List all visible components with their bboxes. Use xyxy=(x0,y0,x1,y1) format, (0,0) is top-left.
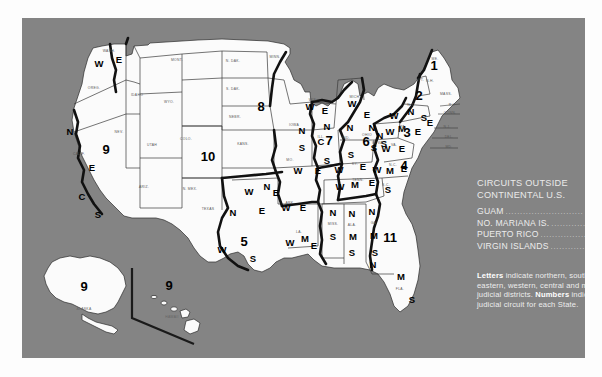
state-abbr: R.I. xyxy=(449,103,455,107)
state-abbr: OHIO xyxy=(362,133,372,137)
alaska-abbr: ALASKA xyxy=(77,307,92,311)
district-letter-louisiana-M: M xyxy=(301,233,309,244)
state-abbr: IOWA xyxy=(289,123,300,127)
legend-dot-leader: ........................... xyxy=(506,207,585,218)
state-abbr: ALA. xyxy=(348,223,357,227)
state-abbr: MISS. xyxy=(328,222,339,226)
state-abbr: WYO. xyxy=(164,100,174,104)
district-letter-california-E: E xyxy=(89,162,95,173)
state-abbr: CONN. xyxy=(444,111,456,115)
district-letter-washington-E: E xyxy=(116,54,122,65)
state-abbr: N.C. xyxy=(389,163,397,167)
district-letter-indiana-N: N xyxy=(347,122,354,133)
district-letter-kentucky-E: E xyxy=(360,161,366,172)
legend-dot-leader: ........................... xyxy=(551,219,585,230)
district-letter-north-carolina-E: E xyxy=(401,163,407,174)
district-letter-tennessee-W: W xyxy=(336,181,345,192)
legend-title-line1: CIRCUITS OUTSIDE xyxy=(477,178,585,190)
circuit-number-9: 9 xyxy=(102,142,109,157)
state-abbr: MD. xyxy=(445,145,452,149)
district-letter-illinois-S: S xyxy=(324,155,330,166)
legend-notes: Letters indicate northern, southern, eas… xyxy=(477,271,585,309)
district-letter-alabama-S: S xyxy=(349,247,355,258)
legend-title: CIRCUITS OUTSIDE CONTINENTAL U.S. xyxy=(477,178,585,201)
district-letter-wisconsin-E: E xyxy=(322,105,328,116)
circuit-number-7: 7 xyxy=(325,133,332,148)
state-abbr: ME. xyxy=(432,57,439,61)
state-abbr: N.J. xyxy=(443,125,450,129)
district-letter-arkansas-E: E xyxy=(300,202,306,213)
district-letter-oklahoma-E: E xyxy=(273,187,279,198)
district-letter-texas-S: S xyxy=(250,253,256,264)
legend-territory-name: GUAM xyxy=(477,206,504,217)
state-abbr: MINN. xyxy=(269,55,280,59)
state-abbr: ARIZ. xyxy=(139,185,149,189)
state-abbr: N. DAK. xyxy=(226,59,240,63)
alaska-circuit-number: 9 xyxy=(80,279,87,294)
state-abbr: ILL. xyxy=(318,135,325,139)
district-letter-alabama-N: N xyxy=(349,208,356,219)
state-abbr: MASS. xyxy=(440,92,452,96)
legend-dot-leader: ........................... xyxy=(541,230,585,241)
district-letter-tennessee-E: E xyxy=(369,177,375,188)
state-abbr: PA. xyxy=(400,125,406,129)
state-abbr: WIS. xyxy=(309,98,318,102)
district-letter-indiana-S: S xyxy=(348,149,354,160)
state-abbr: DEL. xyxy=(445,135,454,139)
district-letter-california-N: N xyxy=(67,126,74,137)
district-letter-north-carolina-W: W xyxy=(373,164,382,175)
legend-territory-name: VIRGIN ISLANDS xyxy=(477,241,549,252)
state-abbr: WASH. xyxy=(103,49,116,53)
circuit-number-10: 10 xyxy=(201,149,215,164)
circuit-number-11: 11 xyxy=(383,230,397,245)
district-letter-oklahoma-W: W xyxy=(245,186,254,197)
district-letter-florida-N: N xyxy=(370,259,377,270)
legend-territory-name: PUERTO RICO xyxy=(477,229,539,240)
district-letter-oklahoma-N: N xyxy=(264,181,271,192)
district-letter-new-york-E: E xyxy=(427,117,433,128)
district-letter-missouri-E: E xyxy=(315,165,321,176)
state-abbr: VA. xyxy=(391,143,397,147)
legend-territory-name: NO. MARIANA IS. xyxy=(477,218,549,229)
state-abbr: IDAHO xyxy=(131,93,143,97)
district-letter-washington-W: W xyxy=(95,58,104,69)
notes-letters-label: Letters xyxy=(477,271,503,280)
state-abbr: MONT. xyxy=(171,58,183,62)
district-letter-louisiana-E: E xyxy=(311,240,317,251)
district-letter-ohio-N: N xyxy=(369,122,376,133)
legend-title-line2: CONTINENTAL U.S. xyxy=(477,190,585,202)
district-letter-kentucky-W: W xyxy=(335,164,344,175)
district-letter-louisiana-W: W xyxy=(286,237,295,248)
state-abbr: UTAH xyxy=(147,143,157,147)
district-letter-michigan-W: W xyxy=(348,98,357,109)
circuit-number-5: 5 xyxy=(240,234,247,249)
district-letter-new-york-W: W xyxy=(390,110,399,121)
hawaii-abbr: HAWAII xyxy=(165,315,179,319)
district-letter-florida-S: S xyxy=(409,294,415,305)
district-letter-iowa-S: S xyxy=(299,142,305,153)
circuit-number-8: 8 xyxy=(257,99,264,114)
state-abbr: NEV. xyxy=(115,130,124,134)
hawaii-circuit-number: 9 xyxy=(165,278,172,293)
state-abbr: KANS. xyxy=(237,142,249,146)
district-letter-michigan-E: E xyxy=(364,109,370,120)
state-abbr: GA. xyxy=(371,221,378,225)
state-abbr: N.Y. xyxy=(407,103,414,107)
state-abbr: VT. xyxy=(418,78,424,82)
district-letter-georgia-S: S xyxy=(372,247,378,258)
district-letter-illinois-N: N xyxy=(324,121,331,132)
state-abbr: ARK. xyxy=(285,201,294,205)
state-abbr: MO. xyxy=(286,158,293,162)
district-letter-missouri-W: W xyxy=(294,165,303,176)
state-abbr: N. MEX. xyxy=(183,187,198,191)
district-letter-new-york-N: N xyxy=(408,106,415,117)
state-abbr: TEXAS xyxy=(202,207,215,211)
legend-row: GUAM...........................9 xyxy=(477,206,585,218)
legend-dot-leader: ........................... xyxy=(551,242,585,253)
state-abbr: N.H. xyxy=(426,79,434,83)
state-abbr: OREG. xyxy=(88,86,100,90)
hawaii-inset: 9 HAWAII xyxy=(151,278,200,334)
district-letter-texas-W: W xyxy=(218,244,227,255)
state-abbr: LA. xyxy=(296,230,302,234)
district-letter-california-S: S xyxy=(95,209,101,220)
